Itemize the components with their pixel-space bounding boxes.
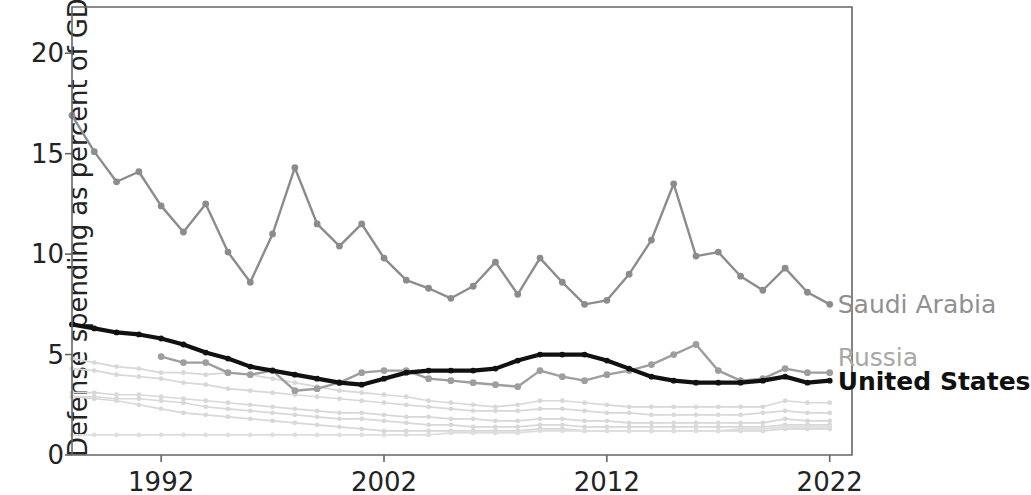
series-point <box>581 377 588 384</box>
series-point <box>382 418 387 423</box>
y-tick-label: 15 <box>22 139 64 169</box>
series-point <box>314 221 321 228</box>
series-point <box>248 402 253 407</box>
series-point <box>159 433 164 438</box>
series-point <box>716 428 721 433</box>
series-point <box>136 374 141 379</box>
series-point <box>515 431 520 436</box>
series-point <box>559 373 566 380</box>
series-point <box>715 380 721 386</box>
series-point <box>404 402 409 407</box>
series-point <box>538 398 543 403</box>
series-point <box>426 414 431 419</box>
series-point <box>627 410 632 415</box>
series-point <box>470 283 477 290</box>
series-point <box>471 408 476 413</box>
series-point <box>247 364 253 370</box>
series-point <box>448 368 454 374</box>
series-point <box>270 410 275 415</box>
series-point <box>113 178 120 185</box>
series-point <box>381 367 388 374</box>
series-point <box>693 380 699 386</box>
series-point <box>738 380 744 386</box>
series-point <box>359 398 364 403</box>
series-point <box>738 404 743 409</box>
series-point <box>114 364 119 369</box>
y-tick-label: 20 <box>22 38 64 68</box>
series-point <box>604 410 609 415</box>
series-point <box>538 406 543 411</box>
y-tick-label: 10 <box>22 239 64 269</box>
series-point <box>91 148 98 155</box>
series-point <box>226 406 231 411</box>
series-point <box>693 341 700 348</box>
series-point <box>92 360 97 365</box>
series-point <box>760 378 766 384</box>
series-point <box>158 202 165 209</box>
series-point <box>382 412 387 417</box>
series-point <box>404 414 409 419</box>
series-point <box>337 396 342 401</box>
series-point <box>582 400 587 405</box>
series-point <box>805 380 811 386</box>
series-point <box>493 431 498 436</box>
series-point <box>92 396 97 401</box>
series-point <box>248 416 253 421</box>
series-point <box>203 412 208 417</box>
series-point <box>92 433 97 438</box>
series-point <box>470 379 477 386</box>
series-point <box>827 378 833 384</box>
x-tick-label: 2022 <box>797 467 863 495</box>
series-point <box>783 408 788 413</box>
series-point <box>337 433 342 438</box>
series-point <box>247 371 254 378</box>
axes-group <box>72 7 852 455</box>
series-point <box>114 372 119 377</box>
series-point <box>159 398 164 403</box>
series-point <box>515 408 520 413</box>
series-point <box>627 428 632 433</box>
series-point <box>426 404 431 409</box>
series-point <box>203 350 209 356</box>
series-point <box>827 400 832 405</box>
series-point <box>648 361 655 368</box>
series-point <box>515 358 521 364</box>
series-point <box>181 370 186 375</box>
series-point <box>492 259 499 266</box>
series-point <box>359 390 364 395</box>
series-point <box>783 398 788 403</box>
series-point <box>470 368 476 374</box>
series-point <box>671 428 676 433</box>
series-point <box>604 428 609 433</box>
y-tick-label: 5 <box>22 340 64 370</box>
series-point <box>291 387 298 394</box>
series-point <box>359 416 364 421</box>
series-point <box>448 400 453 405</box>
series-point <box>537 352 543 358</box>
series-point <box>337 380 343 386</box>
series-point <box>315 433 320 438</box>
series-point <box>715 367 722 374</box>
series-point <box>627 404 632 409</box>
series-point <box>314 376 320 382</box>
series-point <box>337 388 342 393</box>
series-point <box>202 200 209 207</box>
series-point <box>426 368 432 374</box>
series-point <box>648 237 655 244</box>
series-point <box>471 416 476 421</box>
series-point <box>493 408 498 413</box>
series-point <box>114 398 119 403</box>
series-point <box>159 370 164 375</box>
series-point <box>114 330 120 336</box>
series-point <box>582 408 587 413</box>
series-point <box>270 418 275 423</box>
series-point <box>493 366 499 372</box>
series-point <box>426 398 431 403</box>
series-point <box>315 394 320 399</box>
series-point <box>603 371 610 378</box>
series-point <box>203 398 208 403</box>
series-point <box>315 408 320 413</box>
series-point <box>159 406 164 411</box>
series-point <box>514 291 521 298</box>
